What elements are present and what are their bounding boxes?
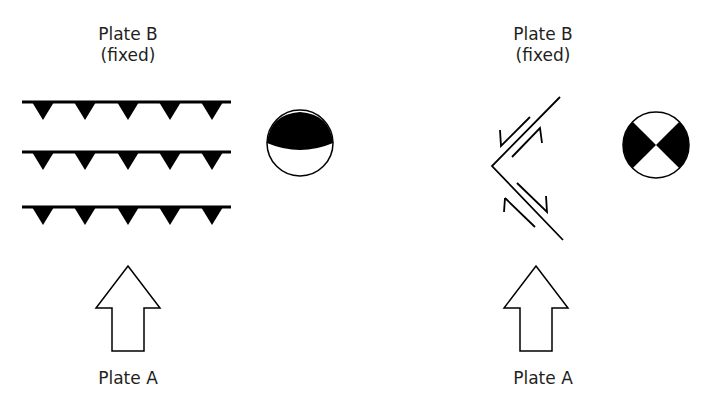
reverse-beachball-icon <box>267 110 333 176</box>
strike-slip-fault-icon <box>492 97 563 240</box>
left-plate-a-arrow-icon <box>96 266 160 351</box>
right-plate-a-arrow-icon <box>504 266 568 351</box>
strike-slip-beachball-icon <box>623 112 689 178</box>
thrust-fault-2 <box>22 152 231 170</box>
diagram-canvas <box>0 0 703 396</box>
thrust-fault-icon <box>22 102 231 225</box>
thrust-fault-1 <box>22 102 231 120</box>
thrust-fault-3 <box>22 207 231 225</box>
